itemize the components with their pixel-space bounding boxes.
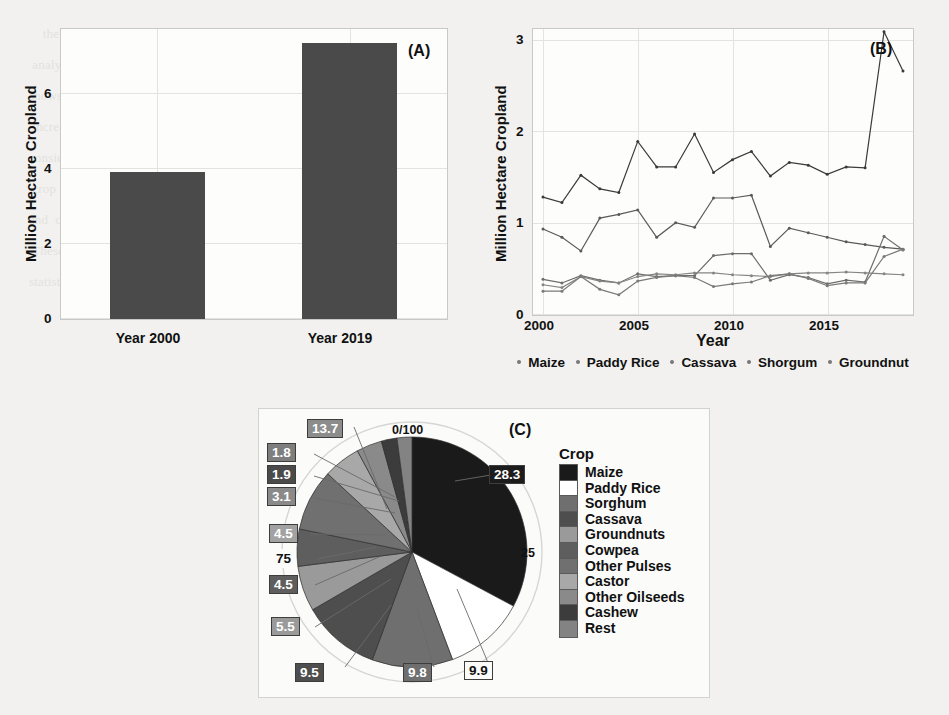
panel-b-point [712, 197, 715, 200]
panel-b-point [826, 173, 829, 176]
panel-b-point [693, 226, 696, 229]
panel-b-point [788, 161, 791, 164]
panel-b-point [864, 166, 867, 169]
panel-b-ytick-3: 3 [516, 32, 524, 47]
panel-b-point [883, 246, 886, 249]
panel-b-point [712, 254, 715, 257]
panel-b-point [845, 270, 848, 273]
panel-c-callout-4-5-castor: 4.5 [269, 524, 298, 543]
panel-b-point [636, 275, 639, 278]
panel-b-point [560, 236, 563, 239]
panel-c-legend-label: Cassava [585, 512, 642, 528]
panel-b-point [617, 191, 620, 194]
panel-b-point [731, 273, 734, 276]
panel-a-ytick-0: 0 [44, 311, 52, 326]
panel-b-point [883, 235, 886, 238]
panel-b-y-axis-label: Million Hectare Cropland [492, 85, 509, 262]
panel-b-point [674, 274, 677, 277]
panel-c-legend-row: Groundnuts [559, 527, 685, 543]
panel-b-point [731, 252, 734, 255]
panel-c-legend-label: Groundnuts [585, 527, 665, 543]
panel-c-legend-row: Cashew [559, 605, 685, 621]
panel-c-legend-row: Rest [559, 621, 685, 637]
panel-c-legend-label: Maize [585, 465, 623, 481]
panel-c-legend-swatch [559, 620, 578, 638]
panel-b-point [542, 196, 545, 199]
panel-b-point [769, 175, 772, 178]
panel-b-legend-label-groundnut: Groundnut [839, 355, 909, 370]
panel-b-point [750, 252, 753, 255]
panel-a-ytick-6: 6 [44, 86, 52, 101]
panel-b-point [655, 276, 658, 279]
panel-b-point [636, 140, 639, 143]
panel-c-legend-row: Castor [559, 574, 685, 590]
panel-a-ytick-4: 4 [44, 161, 52, 176]
panel-b-point [542, 228, 545, 231]
panel-a-tag: (A) [408, 42, 430, 60]
panel-b-point [845, 281, 848, 284]
panel-b-point [750, 194, 753, 197]
panel-b-point [788, 272, 791, 275]
panel-b-legend-label-cassava: Cassava [681, 355, 736, 370]
panel-c-legend-label: Cashew [585, 605, 638, 621]
panel-c-pie-chart: 0/100 25 (C) 13.7 1.8 1.9 3.1 4.5 75 4.5… [258, 408, 710, 698]
panel-c-callout-9-5: 9.5 [295, 663, 324, 682]
panel-c-legend-label: Sorghum [585, 496, 646, 512]
panel-b-point [636, 272, 639, 275]
panel-b-point [902, 248, 905, 251]
panel-c-callout-9-9: 9.9 [464, 661, 493, 680]
panel-b-point [617, 293, 620, 296]
panel-b-line-chart: Million Hectare Cropland 0 1 2 3 2000 20… [470, 0, 949, 390]
panel-b-legend-marker-shorgum [747, 360, 751, 364]
panel-b-legend-marker-maize [517, 360, 521, 364]
panel-b-point [750, 281, 753, 284]
panel-b-xtick-2015: 2015 [809, 318, 839, 333]
panel-b-point [807, 277, 810, 280]
panel-b-point [560, 286, 563, 289]
panel-c-callout-3-1: 3.1 [267, 487, 296, 506]
panel-c-tag: (C) [509, 421, 531, 439]
panel-b-x-axis-label: Year [696, 332, 730, 350]
panel-b-point [712, 171, 715, 174]
panel-b-point [769, 245, 772, 248]
panel-c-legend-row: Cassava [559, 512, 685, 528]
panel-b-ytick-2: 2 [516, 124, 524, 139]
panel-b-point [598, 217, 601, 220]
panel-b-legend-label-shorgum: Shorgum [758, 355, 817, 370]
panel-c-ring-tick-0-100: 0/100 [392, 423, 423, 437]
panel-c-callout-75: 75 [271, 549, 296, 568]
panel-b-point [731, 197, 734, 200]
panel-a-bar-year-2000 [110, 172, 205, 319]
panel-b-point [655, 272, 658, 275]
panel-b-point [579, 174, 582, 177]
panel-c-callout-1-9: 1.9 [267, 465, 296, 484]
panel-b-point [560, 290, 563, 293]
panel-c-legend-label: Rest [585, 621, 615, 637]
panel-b-point [826, 236, 829, 239]
panel-b-tag: (B) [870, 40, 892, 58]
panel-b-point [712, 271, 715, 274]
panel-b-point [636, 208, 639, 211]
panel-a-bar-year-2019 [302, 43, 397, 319]
panel-b-point [807, 271, 810, 274]
panel-c-legend-label: Other Pulses [585, 559, 671, 575]
panel-b-legend-label-paddy-rice: Paddy Rice [587, 355, 660, 370]
panel-b-xtick-2005: 2005 [619, 318, 649, 333]
panel-b-point [807, 164, 810, 167]
panel-b-point [598, 280, 601, 283]
panel-b-point [542, 290, 545, 293]
panel-b-point [674, 221, 677, 224]
panel-b-point [579, 249, 582, 252]
panel-b-plot-area [532, 28, 914, 316]
panel-c-callout-13-7: 13.7 [307, 419, 343, 438]
panel-b-point [636, 280, 639, 283]
panel-b-legend-label-maize: Maize [528, 355, 565, 370]
panel-a-category-year-2019: Year 2019 [253, 330, 427, 346]
panel-a-y-axis-label: Million Hectare Cropland [22, 85, 39, 262]
panel-b-point [883, 30, 886, 33]
panel-b-point [864, 281, 867, 284]
panel-c-callout-5-5: 5.5 [271, 617, 300, 636]
panel-b-point [693, 271, 696, 274]
panel-c-legend-label: Castor [585, 574, 629, 590]
panel-c-legend-row: Sorghum [559, 496, 685, 512]
